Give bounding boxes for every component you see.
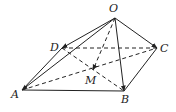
- point-label-O: O: [109, 2, 118, 15]
- vector-OA: [22, 18, 115, 90]
- vector-OD: [62, 18, 115, 48]
- edge-AB: [22, 90, 124, 91]
- point-label-A: A: [10, 88, 19, 101]
- vector-OB: [115, 18, 124, 91]
- pyramid-diagram: OABCDM: [0, 0, 176, 112]
- edge-DA: [22, 48, 62, 90]
- point-label-B: B: [120, 93, 129, 106]
- edge-BC: [124, 48, 157, 91]
- point-label-C: C: [160, 42, 169, 55]
- point-label-D: D: [49, 41, 59, 54]
- vector-OC: [115, 18, 157, 48]
- point-label-M: M: [84, 74, 97, 87]
